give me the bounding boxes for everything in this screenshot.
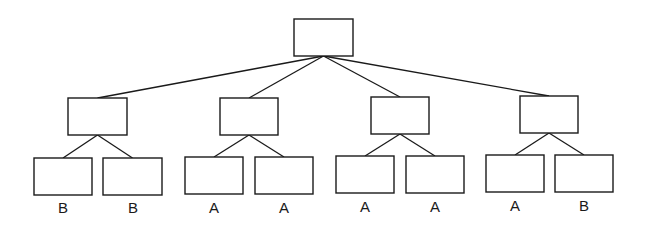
leaf-node-l1 (34, 158, 92, 195)
internal-node-n2 (220, 98, 278, 135)
leaf-label-6: A (430, 198, 440, 215)
internal-node-n4 (520, 96, 578, 133)
leaf-node-l7 (486, 155, 544, 192)
edge-n1-to-l1 (63, 135, 98, 158)
tree-nodes (34, 19, 613, 195)
edge-root-to-n4 (324, 56, 550, 96)
edge-n1-to-l2 (98, 135, 133, 158)
leaf-node-l4 (255, 157, 313, 194)
leaf-label-3: A (209, 199, 219, 216)
leaf-label-2: B (128, 199, 138, 216)
edge-n3-to-l5 (365, 134, 400, 156)
leaf-node-l6 (406, 156, 464, 193)
edge-root-to-n1 (98, 56, 324, 98)
leaf-node-l8 (555, 155, 613, 192)
edge-n2-to-l3 (214, 135, 249, 157)
edge-n4-to-l8 (549, 133, 584, 155)
leaf-label-5: A (360, 198, 370, 215)
leaf-label-7: A (510, 197, 520, 214)
edge-n4-to-l7 (515, 133, 549, 155)
leaf-node-l3 (185, 157, 243, 194)
internal-node-n3 (371, 97, 429, 134)
internal-node-n1 (68, 98, 127, 135)
leaf-label-4: A (279, 199, 289, 216)
edge-n3-to-l6 (400, 134, 435, 156)
leaf-label-8: B (579, 197, 589, 214)
edge-n2-to-l4 (249, 135, 284, 157)
leaf-labels: B B A A A A A B (58, 197, 589, 216)
tree-diagram: B B A A A A A B (0, 0, 649, 228)
leaf-node-l5 (336, 156, 394, 193)
root-node (294, 19, 353, 56)
tree-edges (63, 56, 584, 158)
leaf-node-l2 (103, 158, 162, 195)
leaf-label-1: B (58, 199, 68, 216)
